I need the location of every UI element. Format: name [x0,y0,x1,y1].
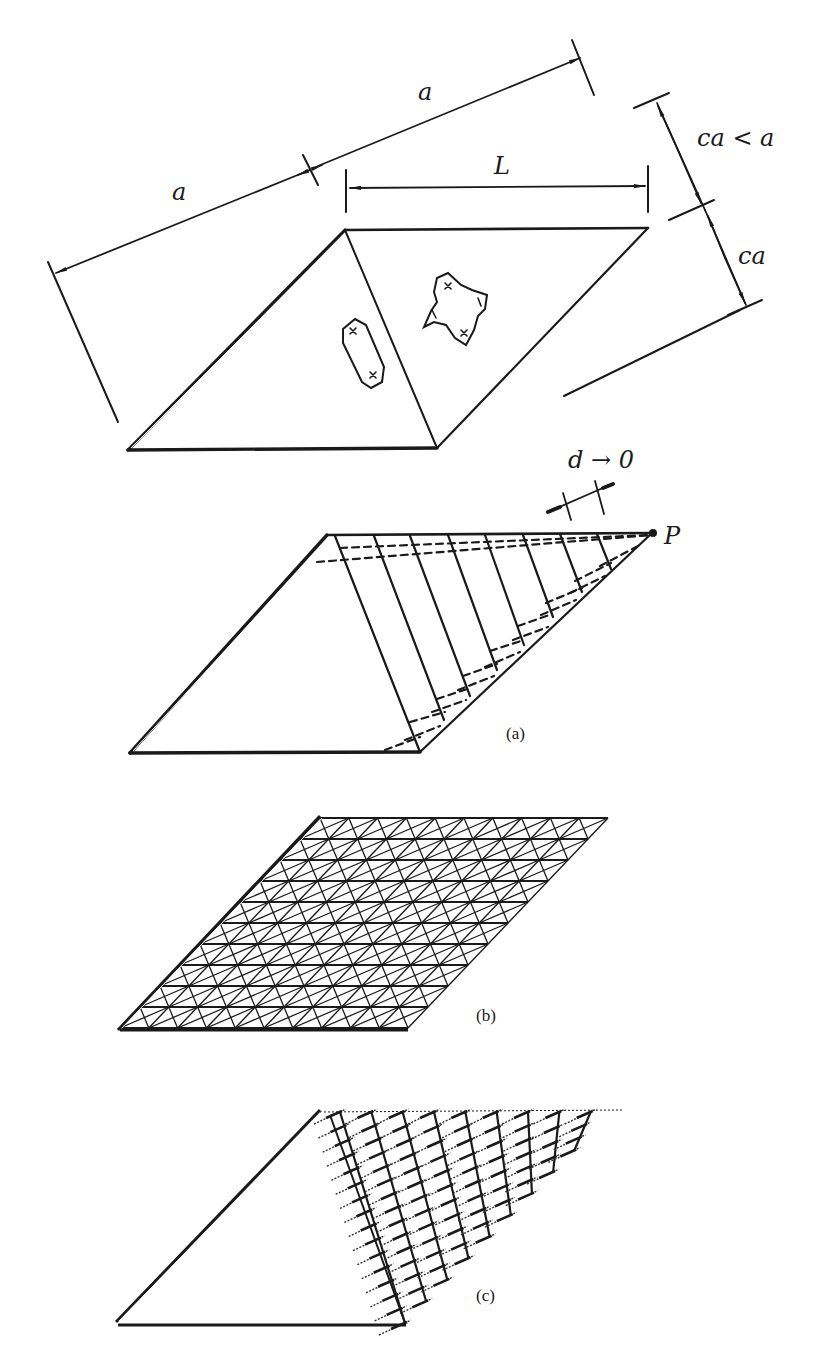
dashed-lines [317,535,652,750]
part-c-figure: (c) [116,1109,622,1335]
cross-cutout [424,273,487,345]
part-b-figure: (b) [118,816,608,1030]
label-P: P [663,522,681,550]
label-L: L [493,152,510,180]
label-ca: ca [738,242,766,270]
caption-a: (a) [506,724,525,743]
strip-mesh [314,1109,622,1335]
top-figure: a a L ca < a ca [48,40,774,450]
part-a-figure: d → 0 P (a) [130,446,681,753]
rhombic-plate [128,228,648,450]
caption-b: (b) [476,1006,496,1025]
strip-lines [335,534,611,752]
label-a-right: a [418,78,432,106]
dimension-a-a [48,40,594,422]
hexagon-cutout [343,319,384,388]
label-d-to-0: d → 0 [568,446,634,474]
figure-canvas: a a L ca < a ca [0,0,830,1348]
d-marker [548,481,613,520]
caption-c: (c) [476,1286,495,1305]
triangular-mesh [120,818,608,1028]
label-ca-lt-a: ca < a [697,124,774,152]
label-a-left: a [172,178,186,206]
point-P-marker [649,529,657,537]
